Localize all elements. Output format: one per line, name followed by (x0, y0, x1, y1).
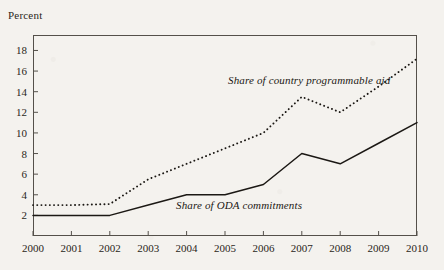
y-tick-label: 4 (5, 189, 27, 201)
series-label-oda-commitments: Share of ODA commitments (176, 199, 302, 211)
y-axis-title: Percent (8, 9, 42, 21)
x-tick-label: 2004 (176, 242, 198, 254)
x-tick-label: 2001 (60, 242, 82, 254)
y-tick-label: 16 (5, 65, 27, 77)
y-tick-label: 2 (5, 209, 27, 221)
y-tick-label: 6 (5, 168, 27, 180)
x-tick-label: 2010 (406, 242, 428, 254)
y-tick-label: 18 (5, 44, 27, 56)
x-tick-label: 2000 (22, 242, 44, 254)
x-tick-label: 2009 (368, 242, 390, 254)
series-label-country-programmable-aid: Share of country programmable aid (228, 74, 390, 86)
x-tick-label: 2008 (329, 242, 351, 254)
y-tick-label: 12 (5, 106, 27, 118)
y-tick-label: 8 (5, 148, 27, 160)
y-tick-label: 14 (5, 86, 27, 98)
x-tick-label: 2003 (137, 242, 159, 254)
x-tick-label: 2005 (214, 242, 236, 254)
x-tick-label: 2007 (291, 242, 313, 254)
x-tick-label: 2002 (99, 242, 121, 254)
chart-figure: Percent 18161412108642 20002001200220032… (0, 0, 444, 270)
x-tick-label: 2006 (252, 242, 274, 254)
y-tick-label: 10 (5, 127, 27, 139)
